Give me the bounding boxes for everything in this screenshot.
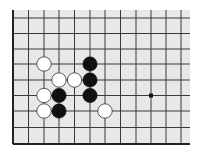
go-board[interactable]: [0, 0, 198, 159]
white-stone: [37, 88, 51, 102]
white-stone: [52, 73, 66, 87]
black-stone: [83, 88, 97, 102]
star-point-icon: [149, 94, 153, 98]
board-background: [12, 10, 190, 145]
white-stone: [98, 104, 112, 118]
white-stone: [37, 104, 51, 118]
white-stone: [37, 57, 51, 71]
black-stone: [83, 73, 97, 87]
black-stone: [83, 57, 97, 71]
white-stone: [67, 73, 81, 87]
black-stone: [52, 88, 66, 102]
black-stone: [52, 104, 66, 118]
star-points: [149, 94, 153, 98]
